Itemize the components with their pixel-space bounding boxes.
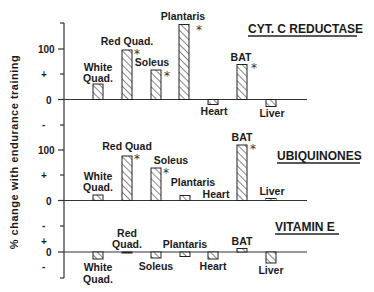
significance-asterisk: * <box>163 166 169 180</box>
bar-bat <box>237 65 247 100</box>
tick-label: 0 <box>46 95 52 106</box>
tick-label: + <box>41 236 47 247</box>
bar-label: Quad. <box>83 273 113 285</box>
significance-asterisk: * <box>164 69 170 83</box>
bar-liver <box>266 100 276 107</box>
panel-cyt-c-reductase: 100 + 0 - CYT. C REDUCTASE White Quad. R… <box>38 10 363 130</box>
bar-heart <box>208 252 218 259</box>
tick-label: 0 <box>46 196 52 207</box>
panel-ubiquinones: 100 + 0 - UBIQUINONES White Quad. Red Qu… <box>38 131 362 231</box>
bar-liver <box>266 252 276 263</box>
tick-label: 0 <box>46 247 52 258</box>
significance-asterisk: * <box>134 152 140 166</box>
y-axis-ticks <box>58 23 64 278</box>
bar-red-quad <box>122 252 132 253</box>
bar-label: Red Quad <box>102 140 152 152</box>
bar-soleus <box>151 252 161 258</box>
chart-figure: % change with endurance training 100 + 0… <box>0 0 374 292</box>
bar-label: Heart <box>200 260 227 272</box>
bar-label: White <box>84 261 113 273</box>
bar-label: Liver <box>259 185 284 197</box>
bar-label: Quad. <box>83 181 113 193</box>
bar-red-quad <box>122 156 132 201</box>
bar-label: BAT <box>232 235 253 247</box>
bar-white-quad <box>93 195 103 201</box>
tick-label: - <box>42 220 45 231</box>
bar-label: Red Quad. <box>101 35 154 47</box>
significance-asterisk: * <box>196 23 202 37</box>
tick-label: + <box>41 69 47 80</box>
bar-label: BAT <box>231 51 252 63</box>
significance-asterisk: * <box>250 142 256 156</box>
bar-label: Liver <box>258 264 283 276</box>
tick-label: - <box>42 261 45 272</box>
bar-red-quad <box>122 50 132 100</box>
bar-plantaris <box>180 252 190 257</box>
bar-white-quad <box>93 84 103 100</box>
tick-label: + <box>41 170 47 181</box>
bar-plantaris <box>180 196 190 201</box>
bar-label: Heart <box>201 105 228 117</box>
bar-bat <box>237 249 247 253</box>
panel-title: CYT. C REDUCTASE <box>248 22 363 36</box>
bar-liver <box>266 199 276 201</box>
bar-label: Heart <box>203 188 230 200</box>
bar-white-quad <box>93 252 103 259</box>
panel-title: VITAMIN E <box>275 220 335 234</box>
panel-title: UBIQUINONES <box>277 149 362 163</box>
bar-label: Plantaris <box>163 238 208 250</box>
bar-label: Soleus <box>154 154 189 166</box>
bar-soleus <box>151 168 161 201</box>
tick-label: 100 <box>38 145 55 156</box>
bar-label: Soleus <box>139 260 174 272</box>
bar-label: Quad. <box>112 238 142 250</box>
panel-vitamin-e: + 0 - VITAMIN E White Quad. Red Quad. So… <box>41 220 339 285</box>
significance-asterisk: * <box>251 61 257 75</box>
significance-asterisk: * <box>134 47 140 61</box>
bar-label: Plantaris <box>161 10 206 22</box>
bar-bat <box>237 145 247 201</box>
bar-heart <box>208 100 218 105</box>
bar-plantaris <box>179 25 189 100</box>
bar-label: Quad. <box>83 72 113 84</box>
bar-label: Liver <box>259 107 284 119</box>
tick-label: - <box>42 119 45 130</box>
bar-label: Plantaris <box>171 176 216 188</box>
tick-label: 100 <box>38 44 55 55</box>
bar-soleus <box>151 70 161 100</box>
y-axis-label: % change with endurance training <box>8 55 20 249</box>
